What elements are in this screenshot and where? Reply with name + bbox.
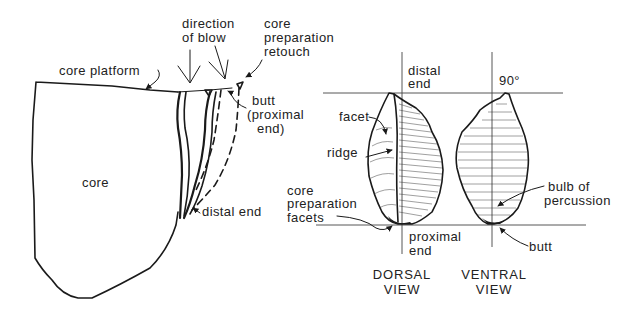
- label-proximal-end-1: proximal: [409, 230, 461, 243]
- flake-anatomy-diagram: [0, 0, 636, 317]
- label-core: core: [82, 176, 109, 189]
- butt-right-leader: [500, 228, 528, 246]
- label-direction-of-blow-1: direction: [182, 17, 235, 30]
- caption-dorsal-1: DORSAL: [362, 268, 442, 281]
- label-core-prep-retouch-1: core: [264, 17, 291, 30]
- label-distal-end-2: end: [408, 77, 431, 90]
- label-butt-1: butt: [252, 94, 275, 107]
- label-butt-2: (proximal: [247, 108, 304, 121]
- label-core-prep-facets-2: preparation: [287, 197, 357, 210]
- label-ridge: ridge: [327, 146, 358, 159]
- direction-of-blow-arrows: [178, 46, 228, 83]
- label-butt-right: butt: [529, 240, 552, 253]
- core-prep-retouch-leader: [246, 60, 262, 77]
- core-outline: [32, 82, 178, 298]
- core-drawing: [32, 82, 243, 298]
- caption-ventral-2: VIEW: [449, 283, 539, 296]
- dorsal-flake: [368, 93, 443, 224]
- caption-ventral-1: VENTRAL: [449, 268, 539, 281]
- label-butt-3: end): [257, 122, 285, 135]
- label-core-prep-retouch-3: retouch: [264, 45, 310, 58]
- label-core-prep-facets-3: facets: [287, 211, 324, 224]
- distal-end-leader: [193, 208, 200, 213]
- label-proximal-end-2: end: [409, 244, 432, 257]
- flake-scar-1: [177, 92, 182, 218]
- caption-dorsal-2: VIEW: [362, 283, 442, 296]
- label-bulb-1: bulb of: [548, 180, 590, 193]
- flake-detached-dashed: [192, 88, 239, 210]
- label-facet: facet: [339, 110, 369, 123]
- core-platform-leader: [146, 70, 159, 89]
- butt-leader: [228, 91, 246, 108]
- label-core-prep-retouch-2: preparation: [264, 31, 334, 44]
- core-prep-facets-leader: [337, 216, 392, 230]
- label-distal-end-left: distal end: [202, 205, 262, 218]
- label-bulb-2: percussion: [544, 194, 611, 207]
- ridge-leader: [366, 150, 392, 157]
- label-angle-90: 90°: [499, 74, 520, 87]
- label-direction-of-blow-2: of blow: [182, 31, 226, 44]
- label-core-platform: core platform: [59, 64, 140, 77]
